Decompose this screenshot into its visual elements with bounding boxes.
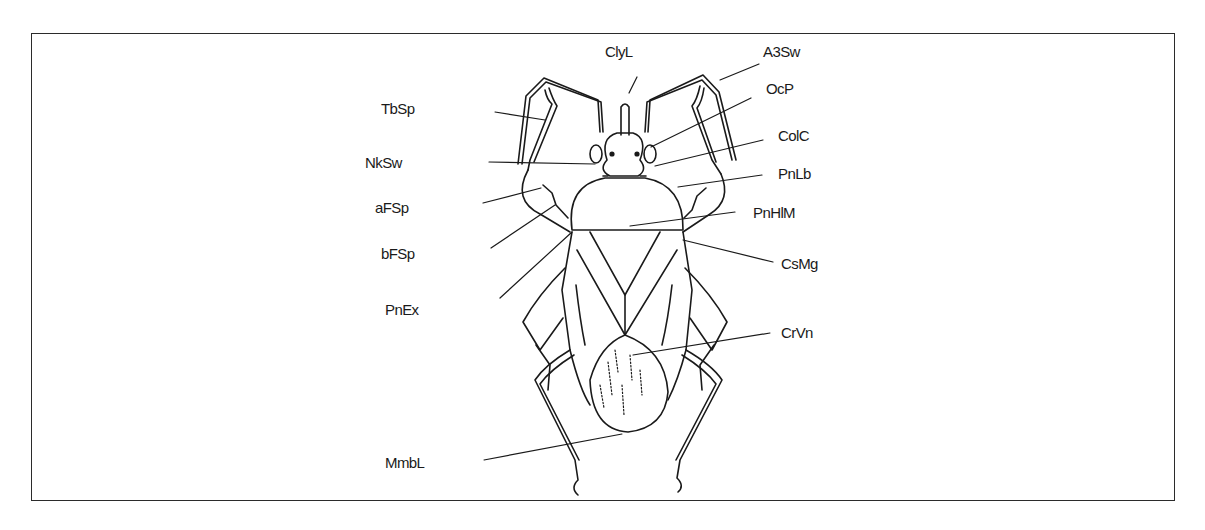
label-a3sw: A3Sw <box>763 44 800 59</box>
label-nksw: NkSw <box>365 155 402 170</box>
leader-ocp <box>651 98 751 147</box>
insect-diagram <box>0 0 1205 530</box>
leader-mmbl <box>484 434 622 460</box>
leader-clyl <box>629 77 637 93</box>
label-bfsp: bFSp <box>381 246 414 261</box>
label-clyl: ClyL <box>605 44 633 59</box>
label-crvn: CrVn <box>781 325 813 340</box>
label-ocp: OcP <box>766 81 793 96</box>
leader-nksw <box>489 162 595 164</box>
forelegs <box>528 86 721 174</box>
hemelytra <box>562 232 692 432</box>
label-pnex: PnEx <box>385 302 418 317</box>
leader-a3sw <box>720 64 759 80</box>
label-mmbl: MmbL <box>385 455 424 470</box>
leader-pnlb <box>678 175 762 187</box>
leader-bfsp <box>491 205 555 248</box>
pronotum <box>522 170 724 232</box>
leader-csmg <box>683 240 773 262</box>
label-afsp: aFSp <box>375 200 408 215</box>
label-pnhlm: PnHlM <box>753 205 795 220</box>
leader-crvn <box>633 333 770 355</box>
leader-afsp <box>483 188 541 203</box>
label-pnlb: PnLb <box>778 166 811 181</box>
hind-legs <box>535 350 722 495</box>
label-csmg: CsMg <box>781 256 818 271</box>
leader-pnex <box>500 232 572 298</box>
label-tbsp: TbSp <box>381 101 414 116</box>
leader-tbsp <box>495 112 545 120</box>
label-colc: ColC <box>778 128 809 143</box>
